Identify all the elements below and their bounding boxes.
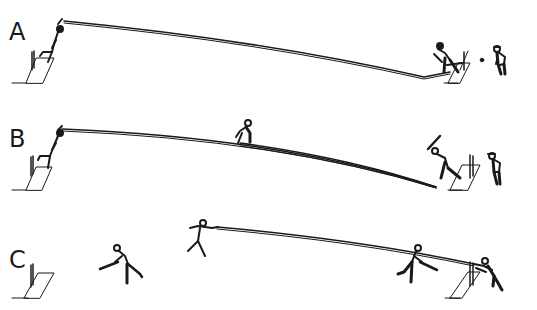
batsman-figure-b — [428, 136, 460, 178]
wicketkeeper-figure-b — [488, 153, 500, 184]
bowler-crease-b — [12, 156, 52, 190]
ball-trajectory-b-lower — [240, 143, 436, 188]
bowler-figure-a — [40, 19, 63, 62]
diagram-canvas — [0, 0, 537, 310]
ball-trajectory-c — [217, 227, 474, 266]
panel-b — [12, 120, 500, 190]
bowler-crease-a — [12, 51, 54, 83]
ball-trajectory-a — [64, 21, 450, 79]
batsman-figure-a — [434, 43, 462, 72]
fielder-figure-b — [236, 120, 251, 143]
panel-c — [12, 220, 502, 298]
wicket-crease-c — [445, 262, 480, 298]
bowler-crease-c — [12, 264, 54, 298]
bowler-figure-b — [38, 126, 63, 168]
ball-a — [480, 58, 484, 62]
panel-a — [12, 19, 505, 83]
running-batsman-figure-c — [100, 245, 142, 283]
wicketkeeper-figure-a — [494, 46, 505, 74]
throwing-fielder-figure-c — [188, 220, 218, 256]
